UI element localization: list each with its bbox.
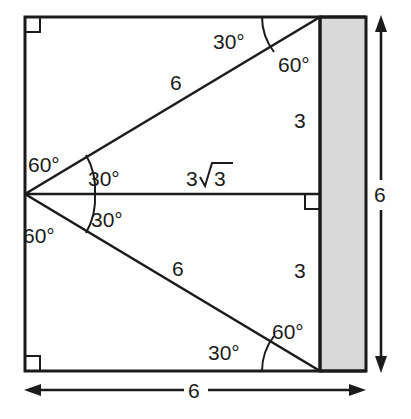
label-upper-right-3: 3 [294,109,306,132]
label-bottom-angle-30: 30° [208,341,240,364]
geometry-figure: 30° 60° 6 3 60° 30° 30° 60° 6 3 30° 60° … [0,0,411,419]
right-angle-marker-bottom-left [25,356,40,371]
bottom-dimension-arrowhead-right [349,384,366,396]
label-upper-hypotenuse-6: 6 [170,71,182,94]
right-angle-marker-center-right [305,194,320,209]
figure-canvas: 30° 60° 6 3 60° 30° 30° 60° 6 3 30° 60° … [0,0,411,419]
label-lower-hypotenuse-6: 6 [172,257,184,280]
upper-hypotenuse [25,17,320,194]
label-bottom-angle-60: 60° [272,320,304,343]
label-bottom-dimension-6: 6 [188,379,200,402]
label-right-dimension-6: 6 [374,183,386,206]
label-top-angle-60: 60° [278,53,310,76]
label-lower-right-3: 3 [294,259,306,282]
label-apex-lower-60: 60° [23,224,55,247]
label-median-3root3: 3 3 [186,163,233,190]
bottom-dimension-arrowhead-left [24,384,41,396]
right-dimension-arrowhead-down [375,356,387,373]
lower-hypotenuse [25,194,320,371]
right-dimension-arrowhead-up [375,15,387,32]
median-radicand: 3 [214,167,226,190]
shaded-band [320,17,366,371]
median-coefficient: 3 [186,167,198,190]
right-angle-marker-top-left [25,17,40,32]
label-apex-upper-60: 60° [28,153,60,176]
label-apex-lower-30: 30° [91,208,123,231]
label-top-angle-30: 30° [213,30,245,53]
label-apex-upper-30: 30° [88,167,120,190]
